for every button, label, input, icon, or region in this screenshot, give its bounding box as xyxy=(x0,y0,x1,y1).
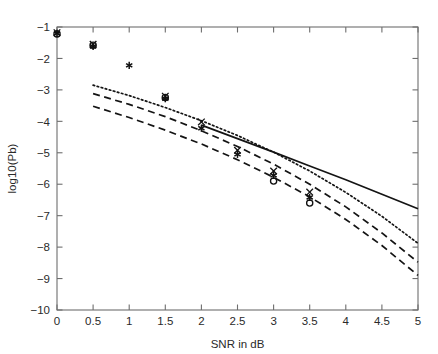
curves-layer xyxy=(93,85,418,275)
plot-box xyxy=(57,27,418,310)
marker-series-simulation-circle xyxy=(54,31,313,206)
x-tick-label: 4 xyxy=(343,315,350,327)
y-tick-label: −1 xyxy=(37,21,50,33)
y-axis-label: log10(Pb) xyxy=(6,143,18,193)
x-tick-label: 2.5 xyxy=(230,315,246,327)
y-tick-label: −8 xyxy=(37,241,50,253)
y-tick-label: −3 xyxy=(37,84,50,96)
x-tick-label: 3 xyxy=(270,315,276,327)
x-tick-label: 0.5 xyxy=(85,315,101,327)
y-tick-label: −6 xyxy=(37,178,50,190)
marker-cross xyxy=(198,119,205,126)
x-tick-label: 1 xyxy=(126,315,132,327)
curve-dashed-bound-upper xyxy=(93,94,418,263)
y-tick-label: −2 xyxy=(37,53,50,65)
x-tick-label: 3.5 xyxy=(302,315,318,327)
y-tick-label: −9 xyxy=(37,273,50,285)
x-tick-label: 4.5 xyxy=(374,315,390,327)
x-tick-label: 1.5 xyxy=(157,315,173,327)
curve-dashed-bound-lower xyxy=(93,106,418,275)
log10-pb-vs-snr-chart: 00.511.522.533.544.55−10−9−8−7−6−5−4−3−2… xyxy=(0,0,438,354)
chart-figure: 00.511.522.533.544.55−10−9−8−7−6−5−4−3−2… xyxy=(0,0,438,354)
x-tick-label: 0 xyxy=(54,315,60,327)
x-tick-label: 2 xyxy=(198,315,204,327)
x-tick-label: 5 xyxy=(415,315,421,327)
marker-series-simulation-star xyxy=(54,30,313,201)
y-tick-label: −5 xyxy=(37,147,50,159)
marker-series-simulation-cross xyxy=(54,29,313,195)
y-tick-label: −10 xyxy=(30,304,50,316)
y-tick-label: −4 xyxy=(37,116,51,128)
axes-layer xyxy=(57,27,418,310)
marker-star xyxy=(126,62,132,69)
markers-layer xyxy=(54,29,313,206)
y-tick-label: −7 xyxy=(37,210,50,222)
x-axis-label: SNR in dB xyxy=(211,338,265,350)
